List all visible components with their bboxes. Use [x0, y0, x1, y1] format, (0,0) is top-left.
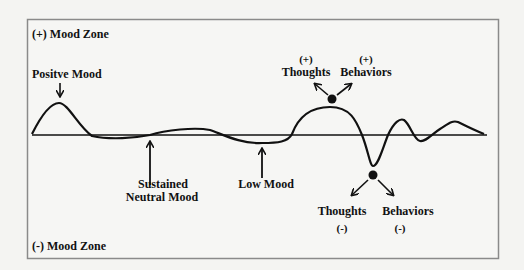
negative-trough-dot	[369, 171, 378, 180]
neg-behaviors-label: Behaviors	[382, 204, 434, 218]
sustained-label-line1: Sustained	[138, 177, 188, 191]
neg-thoughts-sign: (-)	[337, 222, 348, 235]
positive-zone-label: (+) Mood Zone	[32, 27, 110, 41]
negative-zone-label: (-) Mood Zone	[32, 239, 107, 253]
pos-thoughts-label: Thoughts	[282, 65, 331, 79]
positive-mood-label: Positve Mood	[32, 67, 102, 81]
positive-peak-dot	[328, 95, 337, 104]
pos-behaviors-label: Behaviors	[340, 65, 392, 79]
neg-thoughts-label: Thoughts	[318, 204, 367, 218]
neg-behaviors-sign: (-)	[395, 222, 406, 235]
mood-diagram: (+) Mood Zone (-) Mood Zone Positve Mood…	[0, 0, 524, 270]
sustained-label-line2: Neutral Mood	[126, 190, 199, 204]
low-mood-label: Low Mood	[238, 177, 294, 191]
